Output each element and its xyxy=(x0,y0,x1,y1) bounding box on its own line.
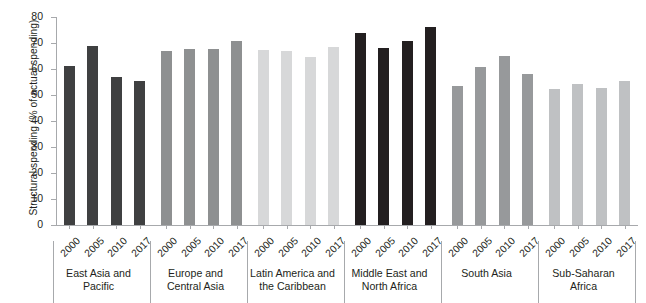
x-year-label: 2005 xyxy=(276,235,300,259)
group-label-line: South Asia xyxy=(438,267,535,280)
x-year-label: 2000 xyxy=(155,235,179,259)
x-tick xyxy=(457,225,458,229)
bar xyxy=(208,49,219,225)
x-tick xyxy=(237,225,238,229)
bar xyxy=(64,66,75,225)
x-year-label: 2010 xyxy=(105,235,129,259)
y-tick-70: 70 xyxy=(51,43,56,44)
bar xyxy=(378,48,389,225)
x-tick xyxy=(625,225,626,229)
group-label: Sub-SaharanAfrica xyxy=(535,267,632,293)
x-tick xyxy=(360,225,361,229)
clipped-title-artifact xyxy=(0,0,646,5)
x-tick xyxy=(140,225,141,229)
y-tick-label-10: 10 xyxy=(31,192,43,204)
x-tick xyxy=(578,225,579,229)
bar xyxy=(499,56,510,225)
x-tick xyxy=(431,225,432,229)
bar xyxy=(111,77,122,225)
x-tick xyxy=(384,225,385,229)
y-axis-line xyxy=(56,17,57,226)
group-label-line: Africa xyxy=(535,280,632,293)
group-label: East Asia andPacific xyxy=(50,267,147,293)
group-separator-edge xyxy=(635,241,636,303)
bar xyxy=(572,84,583,225)
x-year-label: 2010 xyxy=(299,235,323,259)
x-tick xyxy=(407,225,408,229)
group-label-line: East Asia and xyxy=(50,267,147,280)
bar xyxy=(305,57,316,225)
group-label-line: Pacific xyxy=(50,280,147,293)
bar xyxy=(452,86,463,225)
x-year-label: 2010 xyxy=(396,235,420,259)
x-year-label: 2000 xyxy=(543,235,567,259)
x-tick xyxy=(263,225,264,229)
x-tick xyxy=(287,225,288,229)
y-tick-80: 80 xyxy=(51,17,56,18)
x-year-label: 2000 xyxy=(446,235,470,259)
y-tick-20: 20 xyxy=(51,173,56,174)
y-tick-label-70: 70 xyxy=(31,36,43,48)
group-label-line: North Africa xyxy=(341,280,438,293)
x-tick xyxy=(213,225,214,229)
x-tick xyxy=(93,225,94,229)
group-label-line: Central Asia xyxy=(147,280,244,293)
bar xyxy=(522,74,533,225)
y-tick-label-60: 60 xyxy=(31,62,43,74)
y-tick-50: 50 xyxy=(51,95,56,96)
group-label: Europe andCentral Asia xyxy=(147,267,244,293)
x-tick xyxy=(601,225,602,229)
y-tick-10: 10 xyxy=(51,199,56,200)
bar xyxy=(596,88,607,225)
bar xyxy=(619,81,630,225)
bar xyxy=(134,81,145,225)
y-tick-40: 40 xyxy=(51,121,56,122)
x-tick xyxy=(334,225,335,229)
x-tick xyxy=(116,225,117,229)
group-label: Latin America andthe Caribbean xyxy=(244,267,341,293)
bar xyxy=(231,41,242,225)
x-axis-line xyxy=(56,225,638,226)
y-tick-label-50: 50 xyxy=(31,88,43,100)
x-year-label: 2010 xyxy=(493,235,517,259)
x-tick xyxy=(481,225,482,229)
group-label-line: Europe and xyxy=(147,267,244,280)
group-label: Middle East andNorth Africa xyxy=(341,267,438,293)
x-tick xyxy=(504,225,505,229)
x-tick xyxy=(554,225,555,229)
x-tick xyxy=(166,225,167,229)
x-year-label: 2010 xyxy=(202,235,226,259)
group-label-line: the Caribbean xyxy=(244,280,341,293)
bar xyxy=(402,41,413,225)
bar xyxy=(355,33,366,225)
bar-chart: Structural spending (% of actual spendin… xyxy=(0,0,646,303)
bar xyxy=(475,67,486,225)
group-label: South Asia xyxy=(438,267,535,280)
y-tick-label-20: 20 xyxy=(31,166,43,178)
group-label-line: Middle East and xyxy=(341,267,438,280)
bar xyxy=(184,49,195,225)
y-tick-60: 60 xyxy=(51,69,56,70)
bar xyxy=(549,89,560,226)
x-tick xyxy=(528,225,529,229)
x-year-label: 2005 xyxy=(470,235,494,259)
x-year-label: 2010 xyxy=(590,235,614,259)
y-tick-label-40: 40 xyxy=(31,114,43,126)
group-label-line: Sub-Saharan xyxy=(535,267,632,280)
x-tick xyxy=(310,225,311,229)
bar xyxy=(425,27,436,225)
y-tick-30: 30 xyxy=(51,147,56,148)
bar xyxy=(87,46,98,225)
x-year-label: 2000 xyxy=(252,235,276,259)
y-tick-0: 0 xyxy=(51,225,56,226)
x-year-label: 2005 xyxy=(567,235,591,259)
x-year-label: 2000 xyxy=(58,235,82,259)
bar xyxy=(281,51,292,225)
bar xyxy=(258,50,269,225)
x-year-label: 2005 xyxy=(179,235,203,259)
x-tick xyxy=(190,225,191,229)
bar xyxy=(328,47,339,225)
x-year-label: 2005 xyxy=(373,235,397,259)
y-tick-label-80: 80 xyxy=(31,10,43,22)
bar xyxy=(161,51,172,225)
